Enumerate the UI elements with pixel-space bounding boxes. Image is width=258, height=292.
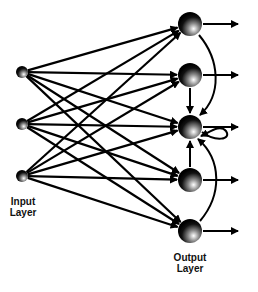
output-node <box>178 219 202 243</box>
input-label-line1: Input <box>6 196 40 207</box>
connection-edge <box>27 31 179 121</box>
network-diagram <box>0 0 258 292</box>
input-label-line2: Layer <box>6 207 40 218</box>
output-label-line1: Output <box>168 252 212 263</box>
output-label-line2: Layer <box>168 263 212 274</box>
connection-edge <box>28 28 178 71</box>
connection-edge <box>28 178 178 227</box>
input-node <box>16 66 28 78</box>
input-output-connections <box>26 28 180 227</box>
output-node <box>178 115 202 139</box>
input-node <box>16 118 28 130</box>
connection-edge <box>28 72 177 75</box>
output-layer-label: Output Layer <box>168 252 212 274</box>
input-layer-label: Input Layer <box>6 196 40 218</box>
connection-edge <box>28 176 177 180</box>
input-node <box>16 170 28 182</box>
output-node <box>178 168 202 192</box>
output-node <box>178 12 202 36</box>
output-node <box>178 63 202 87</box>
